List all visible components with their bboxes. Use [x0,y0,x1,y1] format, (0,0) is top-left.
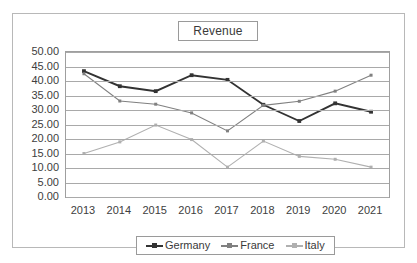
legend-label: Italy [305,240,325,251]
chart-title: Revenue [178,21,258,41]
gridline [66,96,389,97]
legend-item-italy[interactable]: Italy [286,240,325,251]
y-axis-tick-label: 50.00 [13,46,59,57]
legend-marker-icon [221,241,238,250]
y-axis-tick-label: 10.00 [13,162,59,173]
gridline [66,81,389,82]
gridline [66,125,389,126]
legend-item-france[interactable]: France [221,240,274,251]
data-point-marker [118,100,121,103]
data-point-marker [298,100,301,103]
data-point-marker [154,103,157,106]
data-point-marker [226,129,229,132]
chart-frame: Revenue 0.005.0010.0015.0020.0025.0030.0… [12,13,405,248]
y-axis-tick-label: 25.00 [13,119,59,130]
gridline [66,110,389,111]
gridline [66,154,389,155]
data-point-marker [298,155,301,158]
y-axis-tick-label: 30.00 [13,104,59,115]
legend-label: Germany [165,240,210,251]
y-axis-tick-label: 15.00 [13,148,59,159]
x-axis-tick-label: 2021 [347,204,393,217]
data-point-marker [334,158,337,161]
gridline [66,197,389,198]
data-point-marker [154,89,158,93]
gridline [66,183,389,184]
data-point-marker [82,72,85,75]
data-point-marker [333,101,337,105]
data-point-marker [190,111,193,114]
gridline [66,52,389,53]
data-point-marker [190,73,194,77]
data-point-marker [118,140,121,143]
legend-item-germany[interactable]: Germany [146,240,210,251]
gridline [66,67,389,68]
y-axis-tick-label: 0.00 [13,191,59,202]
data-point-marker [334,90,337,93]
y-axis-tick-label: 45.00 [13,61,59,72]
x-axis-labels: 201320142015201620172018201920202021 [65,204,390,220]
series-line [84,74,371,131]
legend-marker-icon [286,241,303,250]
data-point-marker [370,74,373,77]
gridline [66,168,389,169]
legend-label: France [240,240,274,251]
y-axis-tick-label: 5.00 [13,177,59,188]
chart-legend: GermanyFranceItaly [136,236,335,255]
data-point-marker [297,119,301,123]
data-point-marker [262,104,265,107]
y-axis-tick-label: 35.00 [13,90,59,101]
y-axis-tick-label: 40.00 [13,75,59,86]
legend-marker-icon [146,241,163,250]
gridline [66,139,389,140]
y-axis-tick-label: 20.00 [13,133,59,144]
data-point-marker [118,84,122,88]
plot-area [65,51,390,198]
